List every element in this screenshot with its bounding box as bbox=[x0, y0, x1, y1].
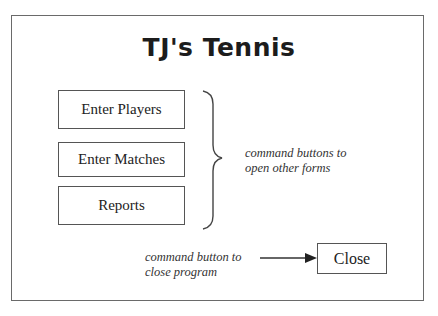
curly-brace-icon bbox=[203, 91, 222, 229]
close-note-line2: close program bbox=[145, 265, 242, 280]
close-annotation: command button to close program bbox=[145, 250, 242, 280]
brace-note-line1: command buttons to bbox=[245, 146, 346, 161]
brace-note-line2: open other forms bbox=[245, 161, 346, 176]
close-button[interactable]: Close bbox=[317, 243, 387, 274]
arrowhead-icon bbox=[305, 253, 317, 263]
close-label: Close bbox=[334, 250, 370, 268]
brace-annotation: command buttons to open other forms bbox=[245, 146, 346, 176]
close-note-line1: command button to bbox=[145, 250, 242, 265]
